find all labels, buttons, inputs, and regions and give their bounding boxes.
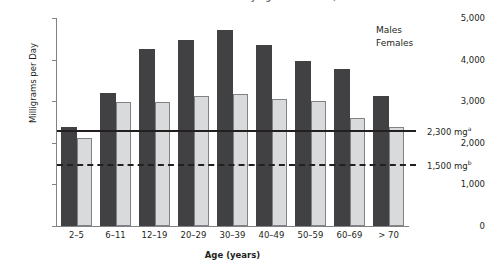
y-tick-label: 4,000 bbox=[437, 56, 485, 65]
y-tick-label: 3,000 bbox=[437, 97, 485, 106]
bar-males-5 bbox=[256, 45, 272, 226]
legend-item-males: Males bbox=[362, 26, 413, 35]
x-tick-label: 6–11 bbox=[96, 230, 135, 240]
bar-females-5 bbox=[272, 99, 288, 226]
bar-group bbox=[139, 18, 170, 226]
y-tick-label: 5,000 bbox=[437, 14, 485, 23]
bar-group bbox=[256, 18, 287, 226]
bar-group bbox=[61, 18, 92, 226]
bar-females-4 bbox=[233, 94, 249, 226]
bar-males-6 bbox=[295, 61, 311, 226]
bar-group bbox=[178, 18, 209, 226]
bar-females-8 bbox=[389, 127, 405, 226]
x-tick-label: > 70 bbox=[369, 230, 408, 240]
y-tick-label: 1,000 bbox=[437, 180, 485, 189]
y-tick-label: 2,000 bbox=[437, 139, 485, 148]
bar-males-2 bbox=[139, 49, 155, 226]
bar-females-0 bbox=[77, 138, 93, 226]
x-tick-label: 60–69 bbox=[330, 230, 369, 240]
bar-females-3 bbox=[194, 96, 210, 226]
y-tick-mark bbox=[52, 226, 57, 227]
x-tick-label: 12–19 bbox=[135, 230, 174, 240]
x-axis-line bbox=[56, 226, 409, 227]
reference-line-1500 bbox=[57, 164, 416, 166]
legend-swatch-icon bbox=[362, 39, 371, 48]
x-tick-label: 30–39 bbox=[213, 230, 252, 240]
bar-females-7 bbox=[350, 118, 366, 226]
reference-line-2300 bbox=[57, 130, 416, 132]
chart-figure: Estimated Mean Usual Intake of Sodium by… bbox=[0, 0, 485, 273]
x-tick-label: 2–5 bbox=[57, 230, 96, 240]
bar-males-3 bbox=[178, 40, 194, 226]
y-axis-label: Milligrams per Day bbox=[28, 28, 38, 138]
bar-group bbox=[295, 18, 326, 226]
bar-males-1 bbox=[100, 93, 116, 226]
legend-label: Males bbox=[376, 26, 402, 35]
reference-label-2300: 2,300 mga bbox=[427, 125, 471, 137]
y-tick-label: 0 bbox=[437, 222, 485, 231]
x-tick-label: 20–29 bbox=[174, 230, 213, 240]
x-tick-label: 50–59 bbox=[291, 230, 330, 240]
chart-legend: MalesFemales bbox=[362, 26, 413, 52]
x-axis-label: Age (years) bbox=[57, 250, 408, 260]
legend-item-females: Females bbox=[362, 39, 413, 48]
plot-area bbox=[57, 18, 408, 226]
bar-group bbox=[334, 18, 365, 226]
x-tick-label: 40–49 bbox=[252, 230, 291, 240]
bar-males-4 bbox=[217, 30, 233, 226]
bar-males-0 bbox=[61, 127, 77, 226]
bar-group bbox=[100, 18, 131, 226]
bar-group bbox=[217, 18, 248, 226]
bar-males-7 bbox=[334, 69, 350, 226]
reference-label-superscript: a bbox=[468, 125, 472, 132]
reference-label-superscript: b bbox=[468, 159, 472, 166]
bar-males-8 bbox=[373, 96, 389, 226]
legend-label: Females bbox=[376, 39, 413, 48]
chart-title: Estimated Mean Usual Intake of Sodium by… bbox=[0, 0, 485, 2]
legend-swatch-icon bbox=[362, 26, 371, 35]
reference-label-1500: 1,500 mgb bbox=[427, 159, 472, 171]
